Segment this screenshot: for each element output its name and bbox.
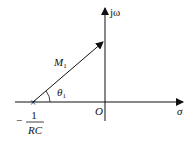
sigma-label: σ	[177, 105, 183, 117]
pole-label-denominator: RC	[27, 124, 43, 136]
origin-label: O	[95, 105, 103, 117]
s-plane-diagram: × jω σ O M1 θ1 − 1 RC	[0, 0, 193, 151]
vector-m1	[33, 42, 103, 102]
pole-label-numerator: 1	[31, 109, 37, 121]
angle-label: θ1	[57, 86, 66, 100]
angle-arc	[46, 91, 50, 102]
jomega-label: jω	[109, 6, 120, 18]
magnitude-label: M1	[53, 56, 67, 70]
pole-marker: ×	[30, 96, 36, 108]
pole-label-sign: −	[16, 114, 22, 126]
